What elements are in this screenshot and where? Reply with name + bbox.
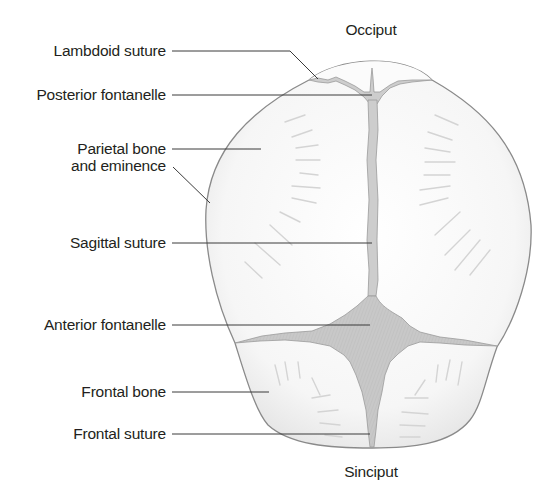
label-parietal-bone: Parietal bone <box>77 140 166 158</box>
leader-parietal-eminence <box>173 167 210 203</box>
label-frontal-bone: Frontal bone <box>81 383 166 401</box>
occiput-label: Occiput <box>345 21 396 39</box>
label-lambdoid-suture: Lambdoid suture <box>54 42 166 60</box>
label-frontal-suture: Frontal suture <box>73 425 166 443</box>
sagittal-suture-shape <box>367 100 378 296</box>
label-sagittal-suture: Sagittal suture <box>70 234 166 252</box>
sinciput-label: Sinciput <box>344 463 398 481</box>
label-parietal-eminence: and eminence <box>71 157 166 175</box>
label-anterior-fontanelle: Anterior fontanelle <box>44 316 166 334</box>
label-posterior-fontanelle: Posterior fontanelle <box>36 86 166 104</box>
leader-lambdoid <box>172 51 318 79</box>
fetal-skull-diagram: Occiput Sinciput Lambdoid suture Posteri… <box>0 0 550 497</box>
